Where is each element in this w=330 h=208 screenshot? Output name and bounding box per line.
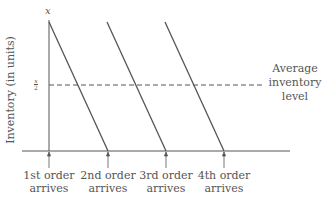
y-axis-half-label: x 2	[34, 78, 38, 91]
order-label-1: 1st order arrives	[19, 169, 79, 195]
inventory-depletion-line-2	[107, 22, 166, 151]
avg-label-line1: Average	[262, 62, 328, 76]
inventory-depletion-line-1	[49, 22, 108, 151]
order-label-3-line2: arrives	[136, 182, 196, 195]
order-label-2-line2: arrives	[78, 182, 138, 195]
avg-label-line2: inventory	[262, 76, 328, 90]
inventory-depletion-line-3	[165, 22, 224, 151]
order-label-2-line1: 2nd order	[78, 169, 138, 182]
order-label-1-line2: arrives	[19, 182, 79, 195]
order-label-3: 3rd order arrives	[136, 169, 196, 195]
y-axis-label: Inventory (in units)	[4, 36, 17, 144]
avg-label-line3: level	[262, 90, 328, 104]
average-inventory-label: Average inventory level	[262, 62, 328, 104]
order-label-4-line2: arrives	[194, 182, 254, 195]
order-label-4: 4th order arrives	[194, 169, 254, 195]
y-axis-max-label: x	[45, 5, 51, 16]
order-arrows	[48, 152, 226, 168]
order-label-1-line1: 1st order	[19, 169, 79, 182]
half-denominator: 2	[34, 84, 38, 91]
order-label-4-line1: 4th order	[194, 169, 254, 182]
y-axis-label-container: Inventory (in units)	[2, 30, 18, 150]
order-label-2: 2nd order arrives	[78, 169, 138, 195]
order-label-3-line1: 3rd order	[136, 169, 196, 182]
